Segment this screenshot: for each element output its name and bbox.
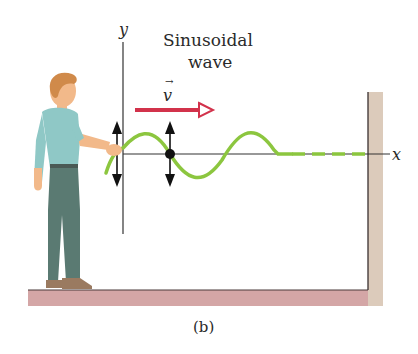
figure-title-line2: wave xyxy=(188,52,232,72)
figure-caption: (b) xyxy=(193,318,214,336)
figure-title-line1: Sinusoidal xyxy=(163,30,253,50)
wall xyxy=(368,92,383,306)
velocity-label: v xyxy=(163,86,172,105)
particle-dot xyxy=(165,149,175,159)
axes xyxy=(123,42,390,234)
y-axis-label: y xyxy=(119,20,128,39)
velocity-arrow-icon xyxy=(135,103,213,117)
floor xyxy=(28,290,383,306)
person-figure xyxy=(34,73,122,289)
x-axis-label: x xyxy=(392,145,401,164)
particle-double-arrow-icon xyxy=(165,121,175,187)
wave xyxy=(106,133,368,178)
